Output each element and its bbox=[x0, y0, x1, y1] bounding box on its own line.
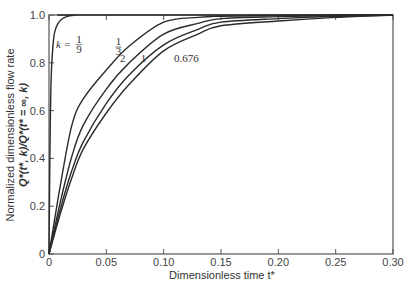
x-tick-label: 0.20 bbox=[268, 256, 289, 268]
curve-label: 1 bbox=[141, 52, 147, 64]
x-tick-label: 0.10 bbox=[153, 256, 174, 268]
curve-label: 2 bbox=[120, 52, 126, 64]
y-axis-title-line2: Q*(t*, k)/Q*(t* = ∞, k) bbox=[17, 83, 29, 187]
curve-k-1 bbox=[49, 15, 393, 254]
y-tick-label: 0.6 bbox=[30, 105, 45, 117]
y-axis-title-line1: Normalized dimensionless flow rate bbox=[4, 48, 16, 221]
y-tick-label: 0 bbox=[39, 248, 45, 260]
x-tick-label: 0.30 bbox=[382, 256, 403, 268]
curve-k-0-676 bbox=[49, 15, 393, 254]
y-tick-label: 0.4 bbox=[30, 152, 45, 164]
curve-label: k =19 bbox=[56, 33, 82, 55]
svg-text:0.676: 0.676 bbox=[174, 52, 199, 64]
flow-rate-chart: 00.050.100.150.200.250.3000.20.40.60.81.… bbox=[0, 0, 413, 286]
y-tick-label: 0.8 bbox=[30, 57, 45, 69]
curve-k-2 bbox=[49, 15, 393, 254]
y-tick-label: 0.2 bbox=[30, 200, 45, 212]
x-tick-label: 0.05 bbox=[96, 256, 117, 268]
y-axis-title: Normalized dimensionless flow rate Q*(t*… bbox=[4, 48, 29, 221]
svg-text:1: 1 bbox=[141, 52, 147, 64]
x-tick-label: 0 bbox=[46, 256, 52, 268]
svg-text:2: 2 bbox=[120, 52, 126, 64]
y-tick-label: 1.0 bbox=[30, 9, 45, 21]
curve-k-1-3 bbox=[49, 15, 393, 254]
x-tick-label: 0.25 bbox=[325, 256, 346, 268]
svg-text:9: 9 bbox=[76, 43, 82, 55]
svg-text:k =: k = bbox=[56, 38, 71, 50]
x-axis-title: Dimensionless time t* bbox=[169, 269, 275, 281]
curve-label: 0.676 bbox=[174, 52, 199, 64]
plot-frame bbox=[49, 15, 393, 254]
x-tick-label: 0.15 bbox=[210, 256, 231, 268]
plot-curves bbox=[49, 15, 393, 254]
curve-k-1-9 bbox=[49, 15, 393, 254]
